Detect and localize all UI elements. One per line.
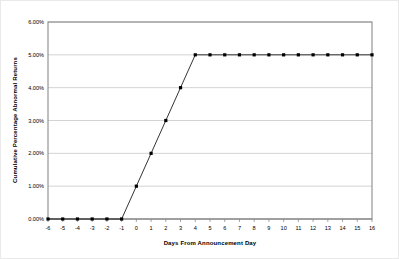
cumulative-abnormal-returns-chart: -6-5-4-3-2-1012345678910111213141516 0.0… [0, 0, 399, 259]
data-point-marker [282, 53, 285, 56]
data-point-marker [238, 53, 241, 56]
y-tick-label-6.00%: 6.00% [28, 19, 44, 25]
x-tick-label-2: 2 [164, 225, 167, 231]
x-tick-label--1: -1 [119, 225, 124, 231]
data-point-marker [208, 53, 211, 56]
y-tick-label-2.00%: 2.00% [28, 150, 44, 156]
x-tick-label-3: 3 [179, 225, 182, 231]
data-point-marker [61, 217, 64, 220]
data-point-marker [105, 217, 108, 220]
data-point-marker [179, 86, 182, 89]
x-tick-label-1: 1 [150, 225, 153, 231]
y-tick-label-3.00%: 3.00% [28, 118, 44, 124]
x-tick-label-12: 12 [310, 225, 316, 231]
data-point-marker [297, 53, 300, 56]
data-point-marker [135, 185, 138, 188]
data-point-marker [370, 53, 373, 56]
x-tick-label--4: -4 [75, 225, 80, 231]
data-point-marker [194, 53, 197, 56]
x-tick-label--6: -6 [46, 225, 51, 231]
data-point-marker [149, 152, 152, 155]
y-tick-label-1.00%: 1.00% [28, 183, 44, 189]
x-tick-label-9: 9 [267, 225, 270, 231]
y-axis-title: Cumulative Percentage Abnormal Returns [12, 57, 18, 183]
x-tick-label-6: 6 [223, 225, 226, 231]
x-tick-label--5: -5 [60, 225, 65, 231]
x-tick-label-16: 16 [369, 225, 375, 231]
x-tick-label-8: 8 [253, 225, 256, 231]
chart-container: -6-5-4-3-2-1012345678910111213141516 0.0… [0, 0, 399, 259]
x-tick-label-10: 10 [281, 225, 287, 231]
data-point-marker [253, 53, 256, 56]
data-point-marker [223, 53, 226, 56]
x-tick-label-11: 11 [295, 225, 301, 231]
data-point-marker [46, 217, 49, 220]
x-tick-label-0: 0 [135, 225, 138, 231]
x-tick-label-15: 15 [354, 225, 360, 231]
x-tick-label-7: 7 [238, 225, 241, 231]
data-point-marker [326, 53, 329, 56]
data-point-marker [120, 217, 123, 220]
data-point-marker [267, 53, 270, 56]
y-tick-label-5.00%: 5.00% [28, 52, 44, 58]
data-point-marker [76, 217, 79, 220]
x-axis-tick-labels: -6-5-4-3-2-1012345678910111213141516 [46, 225, 376, 231]
x-axis-title: Days From Announcement Day [164, 240, 257, 246]
data-point-marker [311, 53, 314, 56]
y-tick-label-4.00%: 4.00% [28, 85, 44, 91]
x-tick-label-13: 13 [325, 225, 331, 231]
x-tick-label-5: 5 [208, 225, 211, 231]
data-point-marker [341, 53, 344, 56]
y-axis-tick-labels: 0.00%1.00%2.00%3.00%4.00%5.00%6.00% [28, 19, 44, 222]
x-tick-label--2: -2 [104, 225, 109, 231]
y-tick-label-0.00%: 0.00% [28, 216, 44, 222]
x-tick-label-14: 14 [339, 225, 345, 231]
data-point-marker [91, 217, 94, 220]
x-tick-label--3: -3 [90, 225, 95, 231]
data-point-marker [356, 53, 359, 56]
data-point-marker [164, 119, 167, 122]
x-tick-label-4: 4 [194, 225, 197, 231]
